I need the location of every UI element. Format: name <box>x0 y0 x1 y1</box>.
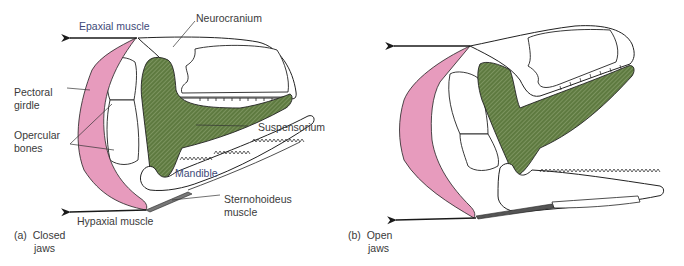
caption-b-line2: jaws <box>348 242 392 255</box>
lower-teeth-b <box>540 169 660 172</box>
hypaxial-arrow <box>70 210 146 212</box>
label-pectoral-girdle-line1: Pectoral <box>14 86 53 98</box>
label-hypaxial-muscle: Hypaxial muscle <box>77 215 153 227</box>
caption-a-letter: (a) <box>14 229 27 241</box>
caption-b-letter: (b) <box>348 229 361 241</box>
panel-a-closed-jaws <box>67 21 314 212</box>
label-suspensorium: Suspensorium <box>258 121 325 133</box>
caption-a-line2: jaws <box>14 242 65 255</box>
hypaxial-arrow-b <box>396 218 476 220</box>
label-opercular-bones-line1: Opercular <box>14 129 60 141</box>
label-sternohyoideus-line2: muscle <box>224 206 257 218</box>
caption-b-line1: Open <box>367 229 393 241</box>
label-epaxial-muscle: Epaxial muscle <box>79 20 150 32</box>
caption-a-line1: Closed <box>33 229 66 241</box>
caption-panel-a: (a) Closed jaws <box>14 229 65 255</box>
orbit-outline <box>181 45 288 93</box>
label-mandible: Mandible <box>175 167 218 179</box>
opercular-bone-lower <box>107 100 139 165</box>
label-neurocranium: Neurocranium <box>196 12 262 24</box>
label-pectoral-girdle-line2: girdle <box>14 99 40 111</box>
jaw-mechanics-figure: Epaxial muscle Neurocranium Pectoral gir… <box>0 0 684 266</box>
sternohyoideus-muscle <box>146 192 192 212</box>
panel-b-open-jaws <box>394 26 664 220</box>
opercular-bone-lower-b <box>460 134 499 171</box>
caption-panel-b: (b) Open jaws <box>348 229 392 255</box>
label-opercular-bones-line2: bones <box>14 142 43 154</box>
label-sternohyoideus-line1: Sternohoideus <box>224 193 292 205</box>
